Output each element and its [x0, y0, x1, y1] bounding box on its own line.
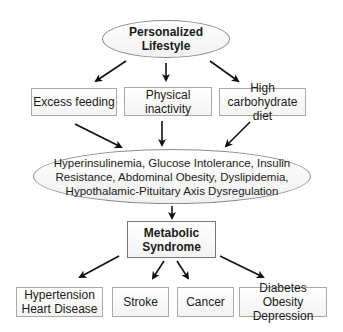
cause-label: Excess feeding — [33, 95, 114, 109]
arrow-high-carb-to-mechanisms — [226, 122, 250, 146]
mechanisms-node: Hyperinsulinemia, Glucose Intolerance, I… — [33, 149, 311, 204]
cause-high-carbohydrate-diet: High carbohydrate diet — [219, 88, 306, 116]
cause-excess-feeding: Excess feeding — [31, 88, 117, 116]
cause-label: Physical inactivity — [139, 88, 197, 116]
outcome-diabetes-obesity-depression: Diabetes Obesity Depression — [239, 287, 327, 317]
arrow-syndrome-to-stroke — [153, 261, 164, 278]
arrow-syndrome-to-hypertension — [80, 256, 119, 277]
arrow-lifestyle-to-high-carb-diet — [210, 61, 238, 81]
outcome-line-1: Cancer — [186, 295, 225, 309]
mechanisms-line-3: Hypothalamic-Pituitary Axis Dysregulatio… — [66, 184, 279, 198]
metabolic-syndrome-node: Metabolic Syndrome — [127, 221, 216, 258]
arrow-syndrome-to-diabetes — [220, 256, 263, 277]
outcome-line-1: Diabetes Obesity — [240, 281, 326, 309]
outcome-cancer: Cancer — [177, 287, 234, 317]
outcome-line-1: Hypertension — [24, 288, 95, 302]
outcome-line-1: Stroke — [123, 295, 158, 309]
arrow-lifestyle-to-excess-feeding — [96, 61, 126, 81]
arrow-syndrome-to-cancer — [177, 261, 188, 278]
outcome-line-2: Heart Disease — [21, 302, 97, 316]
mechanisms-line-1: Hyperinsulinemia, Glucose Intolerance, I… — [54, 156, 291, 170]
arrow-excess-feeding-to-mechanisms — [75, 124, 121, 147]
mechanisms-line-2: Resistance, Abdominal Obesity, Dyslipide… — [55, 170, 288, 184]
cause-label: High carbohydrate diet — [221, 81, 304, 123]
outcome-hypertension-heart-disease: Hypertension Heart Disease — [16, 287, 103, 317]
outcome-stroke: Stroke — [112, 287, 169, 317]
syndrome-line-1: Metabolic — [144, 226, 199, 240]
syndrome-line-2: Syndrome — [142, 240, 201, 254]
cause-physical-inactivity: Physical inactivity — [124, 87, 212, 116]
outcome-line-2: Depression — [253, 309, 314, 323]
personalized-lifestyle-label: Personalized Lifestyle — [103, 25, 229, 53]
personalized-lifestyle-node: Personalized Lifestyle — [102, 20, 230, 58]
